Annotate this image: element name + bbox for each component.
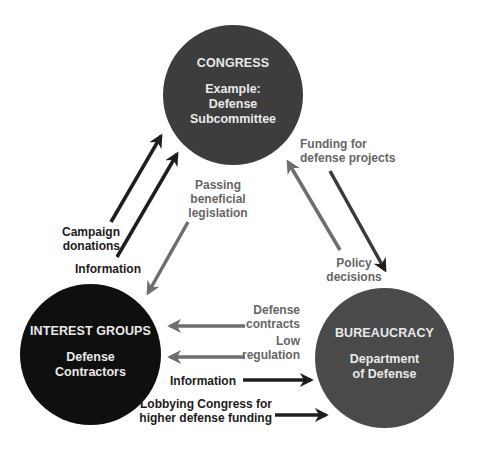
label-information-to-bureaucracy: Information [170, 374, 236, 388]
label-funding: Funding for defense projects [300, 137, 395, 165]
label-information-to-congress: Information [75, 262, 141, 276]
interest-groups-example: Defense Contractors [55, 350, 126, 380]
arrow-campaign-donations [111, 136, 161, 222]
label-lobbying: Lobbying Congress for higher defense fun… [120, 397, 272, 425]
congress-example: Example: Defense Subcommittee [190, 82, 276, 127]
interest-groups-title: INTEREST GROUPS [30, 324, 151, 338]
label-campaign-donations: Campaign donations [46, 225, 120, 253]
label-passing-legislation: Passing beneficial legislation [178, 178, 258, 220]
congress-title: CONGRESS [197, 56, 269, 70]
bureaucracy-example: Department of Defense [350, 352, 419, 382]
label-defense-contracts: Defense contracts [230, 303, 300, 331]
bureaucracy-title: BUREAUCRACY [335, 326, 434, 340]
node-congress: CONGRESS Example: Defense Subcommittee [163, 25, 303, 165]
node-bureaucracy: BUREAUCRACY Department of Defense [315, 288, 454, 428]
label-low-regulation: Low regulation [230, 334, 300, 362]
arrow-information-to-congress [117, 154, 177, 257]
label-policy-decisions: Policy decisions [322, 256, 386, 284]
arrow-passing-legislation [148, 222, 188, 293]
